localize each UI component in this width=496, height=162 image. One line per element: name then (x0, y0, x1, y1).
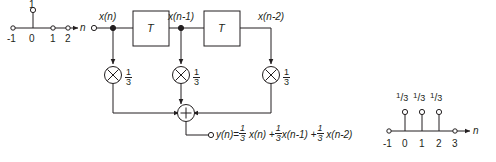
signal-label-x-n-1: x(n-1) (168, 12, 194, 22)
output-tick-dot--1 (387, 129, 391, 133)
wire-mult1-to-summer (113, 84, 179, 114)
input-tick-label-1: 1 (50, 34, 56, 44)
delay-block-1-label: T (147, 22, 154, 34)
equation-term-2-den: 3 (275, 134, 282, 143)
output-tick-label-2: 2 (436, 139, 442, 149)
output-terminal-node (208, 132, 213, 137)
input-tick-label-2: 2 (65, 34, 71, 44)
input-tick-dot-1 (51, 26, 55, 30)
output-stem-label-n1: 1/3 (413, 92, 425, 103)
wire-summer-to-output (186, 122, 208, 136)
input-tick-dot-2 (66, 26, 70, 30)
output-tick-label-0: 0 (402, 139, 408, 149)
equation-term-1-signal: x(n) (249, 129, 266, 140)
output-tick-label--1: -1 (383, 139, 392, 149)
output-tick-dot-3 (453, 129, 457, 133)
multiplier-2-gain-label: 1 3 (193, 68, 200, 87)
output-tick-label-1: 1 (419, 139, 425, 149)
equation-term-2-signal: x(n-1) (282, 129, 308, 140)
equation-term-1-den: 3 (239, 134, 246, 143)
output-stem-label-n2: 1/3 (430, 92, 442, 103)
output-stem-head-n2 (436, 109, 441, 114)
delay-block-2-label: T (218, 22, 225, 34)
input-axis-label-n: n (80, 23, 86, 33)
output-equation: y(n)=13 x(n) +13x(n-1) +13 x(n-2) (216, 124, 352, 143)
equation-term-2-coef: 13 (275, 124, 282, 143)
signal-label-x-n: x(n) (99, 12, 116, 22)
output-stem-head-n1 (419, 109, 424, 114)
input-tick-dot--1 (11, 26, 15, 30)
output-stem-head-n0 (402, 109, 407, 114)
input-tick-label--1: -1 (7, 34, 16, 44)
multiplier-3-gain-label: 1 3 (283, 68, 290, 87)
equation-term-3-signal: x(n-2) (326, 129, 352, 140)
multiplier-1-gain-denominator: 3 (125, 78, 132, 87)
signal-label-x-n-2: x(n-2) (258, 12, 284, 22)
multiplier-3-gain-denominator: 3 (283, 78, 290, 87)
equation-term-3-coef: 13 (317, 124, 324, 143)
equation-lhs: y(n) (216, 129, 233, 140)
output-axis-label-n: n (473, 126, 479, 136)
input-tick-label-0: 0 (29, 34, 35, 44)
input-terminal-node (91, 25, 96, 30)
multiplier-2-gain-denominator: 3 (193, 78, 200, 87)
equation-term-1-coef: 13 (239, 124, 246, 143)
input-impulse-value-label: 1 (29, 0, 35, 10)
output-tick-label-3: 3 (452, 139, 458, 149)
multiplier-1-gain-label: 1 3 (125, 68, 132, 87)
output-stem-label-n0: 1/3 (396, 92, 408, 103)
wire-mult3-to-summer (193, 84, 271, 114)
equation-term-3-den: 3 (317, 134, 324, 143)
filter-block-diagram-figure: 1 -1 0 1 2 n x(n) x(n-1) x(n-2) T T 1 3 … (0, 0, 496, 162)
